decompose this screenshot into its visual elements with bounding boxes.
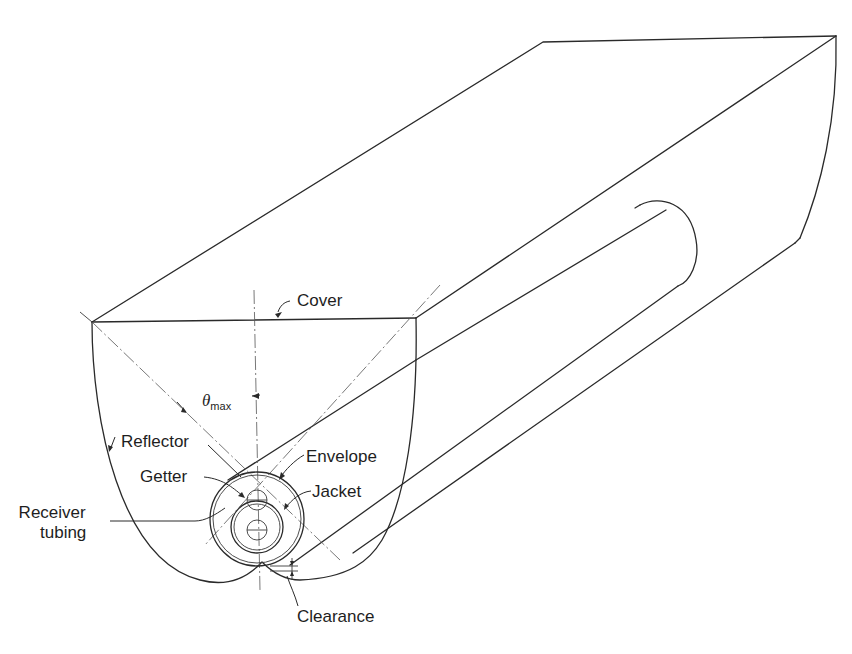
label-jacket: Jacket xyxy=(312,482,361,502)
theta-subscript: max xyxy=(210,400,231,412)
label-cover: Cover xyxy=(297,291,342,311)
jacket xyxy=(231,501,283,553)
cover-text: Cover xyxy=(297,291,342,310)
cover-plane xyxy=(92,36,836,322)
receiver-text-line2: tubing xyxy=(18,523,86,543)
trough-lines xyxy=(228,210,795,565)
jacket-text: Jacket xyxy=(312,482,361,501)
envelope-text: Envelope xyxy=(306,447,377,466)
label-getter: Getter xyxy=(140,467,187,487)
diagram-drawing xyxy=(0,0,852,654)
getter-text: Getter xyxy=(140,467,187,486)
label-reflector: Reflector xyxy=(121,432,189,452)
acceptance-line-right xyxy=(205,285,440,545)
tube-end xyxy=(640,201,697,286)
back-reflector-edge xyxy=(800,36,836,238)
receiver-assembly xyxy=(210,472,304,566)
cpc-collector-diagram: Cover θmax Reflector Envelope Getter Jac… xyxy=(0,0,852,654)
reflector-text: Reflector xyxy=(121,432,189,451)
label-clearance: Clearance xyxy=(297,607,375,627)
envelope-outer xyxy=(210,472,304,566)
clearance-text: Clearance xyxy=(297,607,375,626)
label-envelope: Envelope xyxy=(306,447,377,467)
label-theta-max: θmax xyxy=(202,391,231,413)
optical-axis xyxy=(254,290,260,590)
label-receiver-tubing: Receiver tubing xyxy=(18,503,86,542)
receiver-text-line1: Receiver xyxy=(18,503,86,523)
